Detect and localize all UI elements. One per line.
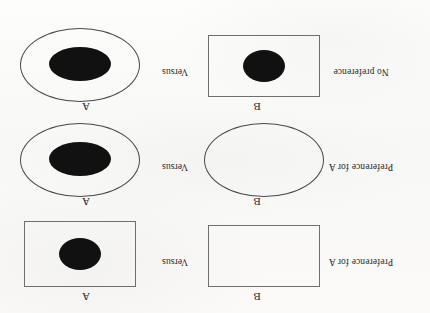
stimulus-panel-b — [208, 225, 320, 287]
rectangle-outline-shape — [208, 225, 320, 287]
filled-ellipse-blob — [49, 47, 111, 81]
comparison-row: Preference for A Versus B A — [0, 210, 430, 305]
comparison-row: No preference Versus B A — [0, 20, 430, 115]
stimulus-panel-a — [24, 31, 136, 97]
option-label-b: B — [242, 101, 272, 113]
ellipse-outline-shape — [204, 123, 324, 197]
filled-ellipse-blob — [59, 238, 101, 270]
stimulus-panel-b — [208, 130, 320, 192]
filled-ellipse-blob — [49, 142, 111, 176]
comparison-row: Preference for A Versus B A — [0, 115, 430, 210]
versus-label: Versus — [148, 67, 202, 77]
stimulus-panel-a — [24, 221, 136, 287]
stimulus-panel-b — [208, 35, 320, 97]
option-label-a: A — [71, 101, 101, 113]
rotated-figure-container: Preference for A Versus B A Preference f… — [0, 0, 430, 313]
stimulus-panel-a — [24, 126, 136, 192]
option-label-b: B — [242, 291, 272, 303]
option-label-b: B — [242, 196, 272, 208]
filled-ellipse-blob — [243, 50, 285, 82]
versus-label: Versus — [148, 162, 202, 172]
figure-page: Preference for A Versus B A Preference f… — [0, 0, 430, 313]
versus-label: Versus — [148, 257, 202, 267]
option-label-a: A — [71, 196, 101, 208]
option-label-a: A — [71, 291, 101, 303]
